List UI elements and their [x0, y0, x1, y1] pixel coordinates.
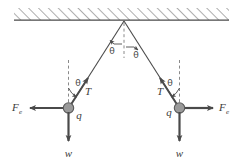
right-theta-label: θ [167, 78, 173, 88]
left-electric-force-label: F e [11, 101, 22, 116]
right-angle-arc [172, 88, 180, 97]
left-charged-ball [63, 103, 73, 113]
diagram-canvas: θ θ θ T F e q w [0, 0, 242, 167]
right-charge-label: q [166, 106, 172, 118]
apex-angle-left-group: θ [109, 41, 122, 57]
right-electric-force-label: F e [218, 101, 229, 116]
left-force-symbol: F [11, 101, 19, 113]
right-force-symbol: F [218, 101, 226, 113]
apex-left-theta-label: θ [109, 46, 115, 56]
right-tension-label: T [157, 85, 164, 97]
right-body-group: θ T F e q w [157, 60, 229, 159]
ceiling-hatching [14, 8, 229, 20]
right-force-subscript: e [226, 108, 229, 116]
ceiling-group [14, 8, 229, 20]
left-tension-label: T [85, 85, 92, 97]
left-angle-arc [69, 88, 77, 97]
left-force-subscript: e [19, 108, 22, 116]
physics-diagram: θ θ θ T F e q w [0, 0, 242, 167]
apex-right-theta-label: θ [133, 50, 139, 60]
left-charge-label: q [76, 109, 82, 121]
right-charged-ball [174, 103, 184, 113]
left-weight-label: w [65, 147, 73, 159]
right-weight-label: w [176, 147, 184, 159]
apex-angle-right-group: θ [126, 47, 139, 60]
left-theta-label: θ [75, 78, 81, 88]
left-body-group: θ T F e q w [11, 60, 92, 159]
